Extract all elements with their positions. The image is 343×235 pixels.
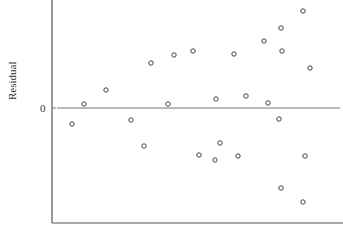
data-point [301,9,305,13]
data-point [142,144,146,148]
data-point [232,52,236,56]
data-point [214,97,218,101]
data-point [236,154,240,158]
zero-tick-label: 0 [40,102,46,114]
data-point [244,94,248,98]
data-point [129,118,133,122]
data-point [279,186,283,190]
data-point [197,153,201,157]
data-point [280,49,284,53]
data-point [303,154,307,158]
data-point [149,61,153,65]
y-axis-label: Residual [6,62,18,101]
data-point [266,101,270,105]
data-point [104,88,108,92]
data-point [166,102,170,106]
data-point [262,39,266,43]
data-point [82,102,86,106]
data-point [218,141,222,145]
data-point [279,26,283,30]
data-point [213,158,217,162]
data-points [70,9,312,204]
data-point [301,200,305,204]
data-point [277,117,281,121]
data-point [70,122,74,126]
data-point [172,53,176,57]
data-point [308,66,312,70]
data-point [191,49,195,53]
residual-plot: 0 [0,0,343,235]
